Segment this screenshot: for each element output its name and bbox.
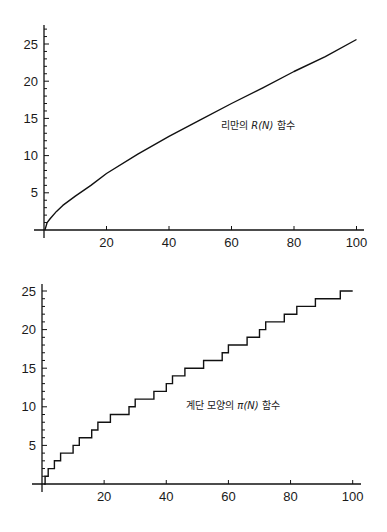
- x-tick-label: 100: [346, 235, 368, 250]
- y-tick-label: 25: [24, 37, 38, 52]
- x-tick-label: 40: [159, 489, 173, 504]
- function-annotation: 리만의 R(N) 함수: [221, 120, 295, 131]
- x-tick-label: 20: [97, 489, 111, 504]
- y-tick-label: 5: [29, 438, 36, 453]
- x-tick-label: 80: [283, 489, 297, 504]
- x-tick-label: 60: [221, 489, 235, 504]
- y-tick-label: 15: [22, 361, 36, 376]
- charts-canvas: 51015202520406080100리만의 R(N) 함수 51015202…: [0, 0, 387, 532]
- y-tick-label: 10: [24, 148, 38, 163]
- y-tick-label: 5: [31, 185, 38, 200]
- prime-pi-step-curve: [44, 291, 353, 484]
- x-tick-label: 40: [162, 235, 176, 250]
- y-tick-label: 20: [24, 74, 38, 89]
- y-tick-label: 15: [24, 111, 38, 126]
- riemann-r-curve: [45, 40, 357, 231]
- prime-pi-chart: 51015202520406080100계단 모양의 π(N) 함수: [22, 284, 364, 505]
- x-tick-label: 80: [287, 235, 301, 250]
- x-tick-label: 60: [224, 235, 238, 250]
- x-tick-label: 20: [99, 235, 113, 250]
- y-tick-label: 20: [22, 322, 36, 337]
- y-tick-label: 25: [22, 284, 36, 299]
- y-tick-label: 10: [22, 399, 36, 414]
- riemann-r-chart: 51015202520406080100리만의 R(N) 함수: [24, 25, 368, 250]
- function-annotation: 계단 모양의 π(N) 함수: [186, 400, 280, 411]
- x-tick-label: 100: [342, 489, 364, 504]
